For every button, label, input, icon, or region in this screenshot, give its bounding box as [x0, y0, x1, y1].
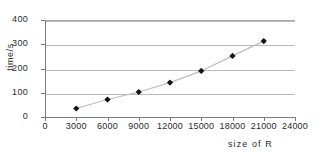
data-point-core [169, 81, 172, 84]
y-axis-title: time/s [5, 35, 15, 79]
x-axis-title: size of R [228, 139, 273, 149]
data-point-core [137, 91, 140, 94]
data-point-core [231, 54, 234, 57]
data-point-core [200, 69, 203, 72]
data-point-core [262, 40, 265, 43]
data-point-core [75, 107, 78, 110]
data-series [0, 0, 325, 157]
chart-container: 03000600090001200015000180002100024000 0… [0, 0, 325, 157]
data-point-core [106, 98, 109, 101]
series-line [76, 41, 264, 108]
